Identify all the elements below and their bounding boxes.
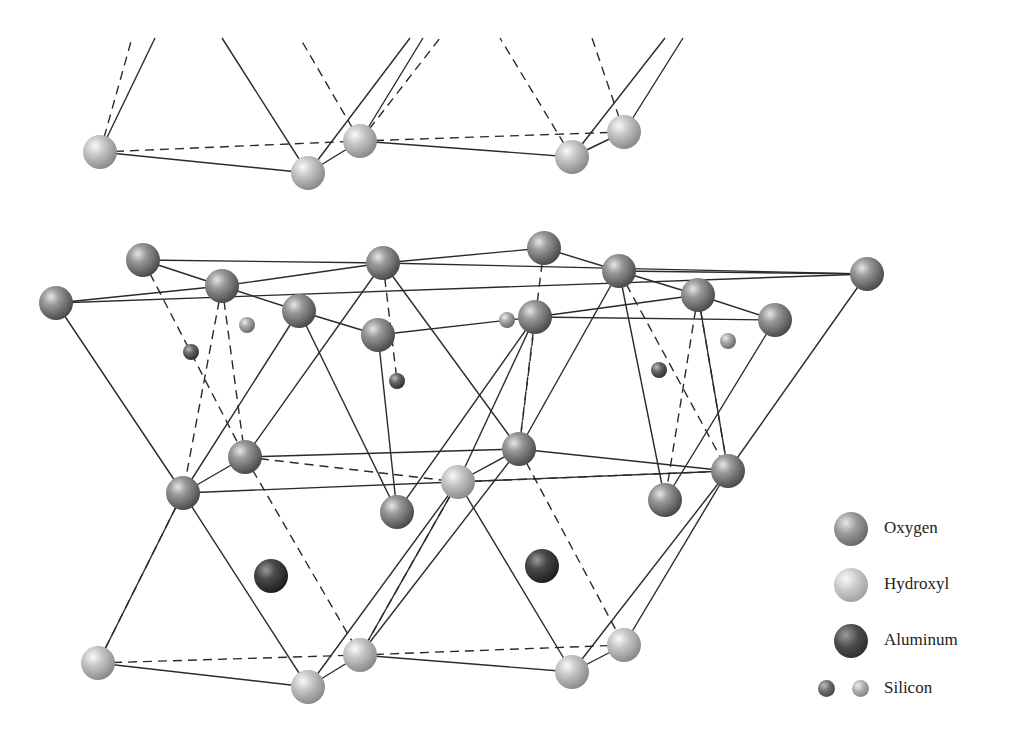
solid-bond-line <box>519 271 619 449</box>
oxygen-atom <box>648 483 682 517</box>
solid-bond-line <box>535 295 698 317</box>
hydroxyl-atom <box>343 124 377 158</box>
solid-bond-line <box>360 38 423 141</box>
dashed-bond-line <box>300 38 360 141</box>
solid-bond-line <box>100 38 155 152</box>
silicon-sphere-icon-light <box>852 680 869 697</box>
solid-bond-line <box>360 655 572 672</box>
oxygen-atom <box>380 495 414 529</box>
oxygen-atom <box>126 243 160 277</box>
oxygen-atom <box>502 432 536 466</box>
solid-bond-line <box>98 663 308 687</box>
dashed-bond-line <box>665 295 698 500</box>
silicon-sphere-icon <box>818 680 835 697</box>
oxygen-atom <box>39 286 73 320</box>
atoms-layer <box>39 115 884 704</box>
dashed-bond-line <box>360 645 624 655</box>
solid-bond-line <box>383 263 519 449</box>
hydroxyl-sphere-icon <box>834 568 868 602</box>
silicon-light-atom <box>720 333 736 349</box>
oxygen-atom <box>711 454 745 488</box>
solid-bond-line <box>56 303 183 493</box>
dashed-bond-line <box>360 132 624 141</box>
solid-bond-line <box>56 274 867 303</box>
legend-item-oxygen: Oxygen <box>818 512 1016 552</box>
oxygen-atom <box>527 231 561 265</box>
oxygen-atom <box>361 318 395 352</box>
legend-item-silicon: Silicon <box>818 678 1016 718</box>
silicon-dark-atom <box>183 344 199 360</box>
silicon-light-atom <box>499 312 515 328</box>
hydroxyl-atom <box>291 156 325 190</box>
solid-bond-line <box>728 274 867 471</box>
hydroxyl-atom <box>83 135 117 169</box>
solid-bond-line <box>222 38 308 173</box>
aluminum-atom <box>525 549 559 583</box>
silicon-light-atom <box>239 317 255 333</box>
solid-bond-line <box>619 271 665 500</box>
legend-label-aluminum: Aluminum <box>884 630 958 650</box>
dashed-bond-line <box>360 38 440 141</box>
legend-item-hydroxyl: Hydroxyl <box>818 568 1016 608</box>
solid-bond-line <box>143 260 383 263</box>
oxygen-atom <box>850 257 884 291</box>
solid-bond-line <box>245 263 383 457</box>
oxygen-atom <box>681 278 715 312</box>
silicon-dark-atom <box>389 373 405 389</box>
oxygen-atom <box>166 476 200 510</box>
solid-bond-line <box>360 141 572 157</box>
solid-bond-line <box>222 263 383 286</box>
solid-bond-line <box>519 449 728 471</box>
hydroxyl-atom <box>291 670 325 704</box>
dashed-bond-line <box>519 449 624 645</box>
oxygen-atom <box>366 246 400 280</box>
bonds-layer <box>56 38 867 687</box>
solid-bond-line <box>383 248 544 263</box>
solid-bond-line <box>245 449 519 457</box>
legend-label-hydroxyl: Hydroxyl <box>884 574 949 594</box>
oxygen-atom <box>205 269 239 303</box>
legend-label-silicon: Silicon <box>884 678 932 698</box>
solid-bond-line <box>183 493 308 687</box>
dashed-bond-line <box>245 457 458 482</box>
aluminum-atom <box>254 559 288 593</box>
dashed-bond-line <box>98 655 360 663</box>
oxygen-atom <box>518 300 552 334</box>
legend-item-aluminum: Aluminum <box>818 624 1016 664</box>
dashed-bond-line <box>500 38 572 157</box>
hydroxyl-atom <box>81 646 115 680</box>
silicon-dark-atom <box>651 362 667 378</box>
hydroxyl-atom <box>607 628 641 662</box>
oxygen-sphere-icon <box>834 512 868 546</box>
hydroxyl-atom <box>555 655 589 689</box>
hydroxyl-atom <box>441 465 475 499</box>
aluminum-sphere-icon <box>834 624 868 658</box>
oxygen-atom <box>758 303 792 337</box>
hydroxyl-atom <box>607 115 641 149</box>
dashed-bond-line <box>100 141 360 152</box>
oxygen-atom <box>228 440 262 474</box>
hydroxyl-atom <box>555 140 589 174</box>
solid-bond-line <box>535 317 775 320</box>
dashed-bond-line <box>222 286 245 457</box>
oxygen-atom <box>282 294 316 328</box>
solid-bond-line <box>100 152 308 173</box>
legend-label-oxygen: Oxygen <box>884 518 938 538</box>
hydroxyl-atom <box>343 638 377 672</box>
oxygen-atom <box>602 254 636 288</box>
